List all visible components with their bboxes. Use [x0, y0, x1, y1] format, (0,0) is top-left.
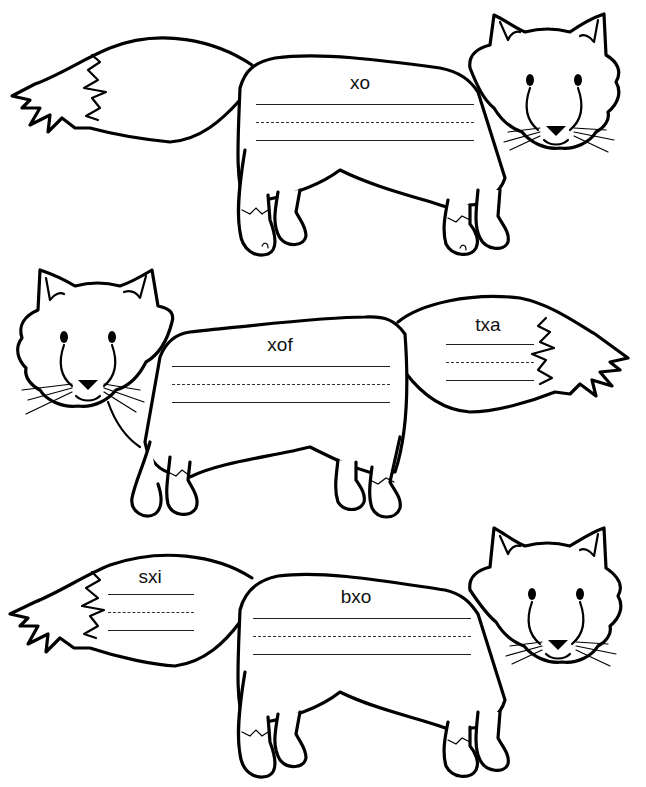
- fox-figure-3: sxi bxo: [0, 520, 646, 787]
- fox-1-body-line-top: [256, 104, 474, 105]
- fox-figure-2: xof txa: [0, 262, 646, 527]
- fox-3-body-label: bxo: [341, 586, 372, 608]
- fox-2-tail-line-bottom: [446, 380, 534, 381]
- fox-2-body-line-bottom: [172, 402, 390, 403]
- fox-1-body-line-mid: [256, 122, 474, 123]
- fox-3-body-line-bottom: [253, 654, 471, 655]
- fox-2-tail-line-mid: [446, 362, 534, 363]
- fox-2-tail-line-top: [446, 344, 534, 345]
- fox-figure-1: xo: [0, 0, 646, 265]
- fox-illustration-icon: [0, 0, 646, 265]
- fox-1-body-label: xo: [350, 72, 370, 94]
- fox-1-body-line-bottom: [256, 140, 474, 141]
- fox-3-body-line-top: [253, 618, 471, 619]
- fox-2-body-label: xof: [267, 334, 292, 356]
- fox-2-body-line-top: [172, 366, 390, 367]
- fox-illustration-icon: [0, 262, 646, 527]
- fox-2-tail-label: txa: [475, 314, 500, 336]
- fox-3-body-line-mid: [253, 636, 471, 637]
- fox-3-tail-line-top: [108, 594, 194, 595]
- fox-3-tail-line-bottom: [108, 630, 194, 631]
- fox-2-body-line-mid: [172, 384, 390, 385]
- fox-3-tail-line-mid: [108, 612, 194, 613]
- fox-3-tail-label: sxi: [138, 566, 161, 588]
